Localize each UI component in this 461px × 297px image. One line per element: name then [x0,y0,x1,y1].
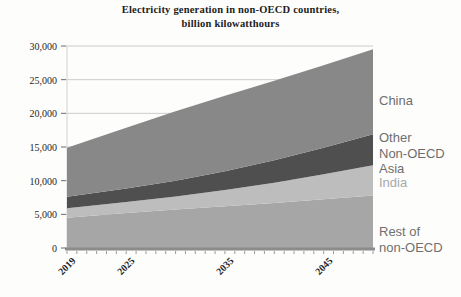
y-axis-tick-label: 10,000 [13,176,57,187]
y-axis-tick-label: 30,000 [13,41,57,52]
series-label-india: India [379,175,407,191]
y-axis-tick-label: 25,000 [13,75,57,86]
chart-page: Electricity generation in non-OECD count… [0,0,461,297]
series-label-china: China [379,93,413,109]
y-axis-tick-label: 20,000 [13,108,57,119]
series-label-other: Other Non-OECD Asia [379,130,445,177]
y-axis-tick-label: 5,000 [13,209,57,220]
y-axis-tick-label: 15,000 [13,142,57,153]
y-axis-tick-label: 0 [13,243,57,254]
x-axis-line [65,248,375,251]
series-label-rest-of: Rest of non-OECD [379,224,443,255]
